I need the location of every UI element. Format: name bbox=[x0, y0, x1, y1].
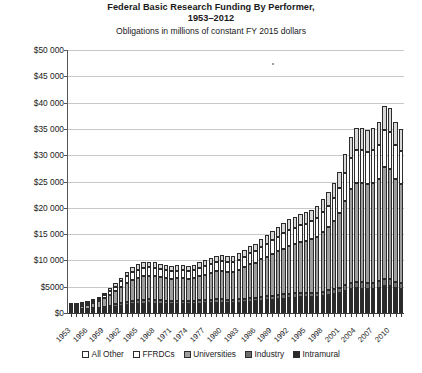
x-tick-mark bbox=[278, 314, 279, 317]
bar-column bbox=[119, 278, 124, 313]
x-tick-mark bbox=[200, 314, 201, 317]
bar-segment-intramural bbox=[214, 303, 219, 313]
bar-segment-universities bbox=[175, 278, 180, 300]
x-axis-tick-label: 1956 bbox=[71, 326, 89, 344]
bar-segment-universities bbox=[315, 237, 320, 293]
x-axis-tick-label: 1953 bbox=[54, 326, 72, 344]
bar-segment-ffrdcs bbox=[253, 251, 258, 263]
bar-segment-universities bbox=[119, 287, 124, 303]
bar-segment-intramural bbox=[248, 302, 253, 313]
bar-segment-universities bbox=[393, 179, 398, 282]
bar-segment-universities bbox=[108, 295, 113, 306]
bar-segment-ffrdcs bbox=[225, 262, 230, 271]
x-tick-mark bbox=[160, 314, 161, 317]
bar-column bbox=[209, 258, 214, 313]
bar-segment-ffrdcs bbox=[281, 233, 286, 248]
x-tick-mark bbox=[345, 314, 346, 317]
bar-segment-universities bbox=[354, 183, 359, 282]
bar-segment-intramural bbox=[309, 297, 314, 313]
bar-segment-intramural bbox=[125, 305, 130, 313]
bar-segment-universities bbox=[399, 184, 404, 283]
bar-column bbox=[242, 250, 247, 313]
x-axis-tick-label: 2007 bbox=[356, 326, 374, 344]
bar-segment-ffrdcs bbox=[349, 158, 354, 189]
bar-segment-all-other bbox=[321, 199, 326, 212]
bar-segment-intramural bbox=[203, 303, 208, 313]
bar-segment-universities bbox=[141, 276, 146, 299]
bar-segment-all-other bbox=[337, 172, 342, 188]
x-tick-mark bbox=[110, 314, 111, 317]
x-axis-tick-label: 1977 bbox=[188, 326, 206, 344]
bar-segment-intramural bbox=[281, 299, 286, 313]
bar-segment-intramural bbox=[169, 304, 174, 313]
bar-segment-all-other bbox=[265, 235, 270, 244]
bar-segment-universities bbox=[298, 242, 303, 293]
bar-segment-intramural bbox=[209, 303, 214, 313]
bar-column bbox=[203, 260, 208, 313]
x-tick-mark bbox=[239, 314, 240, 317]
bar-segment-universities bbox=[113, 291, 118, 304]
bar-segment-intramural bbox=[74, 311, 79, 313]
bar-segment-universities bbox=[270, 254, 275, 296]
x-tick-mark bbox=[312, 314, 313, 317]
bar-segment-all-other bbox=[371, 128, 376, 150]
bar-segment-universities bbox=[203, 275, 208, 300]
bar-segment-all-other bbox=[365, 130, 370, 152]
bar-column bbox=[175, 265, 180, 313]
bar-segment-all-other bbox=[382, 106, 387, 130]
bar-column bbox=[337, 172, 342, 313]
bar-column bbox=[388, 108, 393, 313]
bar-column bbox=[360, 128, 365, 313]
bar-column bbox=[231, 256, 236, 313]
bar-segment-intramural bbox=[287, 298, 292, 313]
bar-segment-ffrdcs bbox=[276, 237, 281, 252]
x-axis-tick-label: 2010 bbox=[373, 326, 391, 344]
bar-column bbox=[259, 239, 264, 313]
bar-segment-intramural bbox=[231, 303, 236, 313]
bar-segment-universities bbox=[309, 239, 314, 293]
x-axis-tick-label: 1998 bbox=[306, 326, 324, 344]
bar-segment-intramural bbox=[315, 297, 320, 313]
bar-segment-universities bbox=[225, 272, 230, 300]
x-tick-mark bbox=[194, 314, 195, 317]
bar-segment-ffrdcs bbox=[332, 198, 337, 221]
legend-swatch-icon bbox=[293, 351, 300, 358]
bar-segment-ffrdcs bbox=[293, 228, 298, 244]
x-tick-mark bbox=[121, 314, 122, 317]
bar-segment-ffrdcs bbox=[153, 268, 158, 276]
bar-segment-all-other bbox=[287, 219, 292, 230]
bar-segment-intramural bbox=[80, 311, 85, 313]
bar-column bbox=[192, 265, 197, 313]
x-tick-mark bbox=[351, 314, 352, 317]
legend-label: Universities bbox=[193, 349, 236, 359]
x-tick-mark bbox=[132, 314, 133, 317]
bar-segment-intramural bbox=[298, 297, 303, 313]
bar-column bbox=[265, 235, 270, 313]
bar-segment-intramural bbox=[304, 297, 309, 313]
legend-swatch-icon bbox=[82, 351, 89, 358]
x-axis-labels: 1953195619591962196519681971197419771980… bbox=[68, 314, 408, 348]
bar-series-group bbox=[68, 50, 404, 313]
legend-item-ffrdcs[interactable]: FFRDCs bbox=[133, 349, 175, 359]
bar-segment-universities bbox=[281, 249, 286, 295]
legend-item-universities[interactable]: Universities bbox=[184, 349, 236, 359]
legend-item-all-other[interactable]: All Other bbox=[82, 349, 124, 359]
x-tick-mark bbox=[177, 314, 178, 317]
legend-item-intramural[interactable]: Intramural bbox=[293, 349, 340, 359]
x-tick-mark bbox=[396, 314, 397, 317]
bar-column bbox=[97, 297, 102, 313]
bar-segment-ffrdcs bbox=[304, 224, 309, 241]
legend-item-industry[interactable]: Industry bbox=[245, 349, 284, 359]
x-axis-tick-label: 1992 bbox=[272, 326, 290, 344]
bar-segment-ffrdcs bbox=[209, 264, 214, 273]
bar-segment-intramural bbox=[382, 286, 387, 313]
bar-segment-intramural bbox=[343, 291, 348, 313]
bar-segment-universities bbox=[259, 259, 264, 296]
bar-segment-intramural bbox=[141, 304, 146, 313]
bar-column bbox=[326, 192, 331, 313]
bar-column bbox=[287, 219, 292, 313]
bar-segment-intramural bbox=[242, 302, 247, 313]
x-tick-mark bbox=[384, 314, 385, 317]
x-tick-mark bbox=[93, 314, 94, 317]
bar-segment-ffrdcs bbox=[337, 188, 342, 213]
